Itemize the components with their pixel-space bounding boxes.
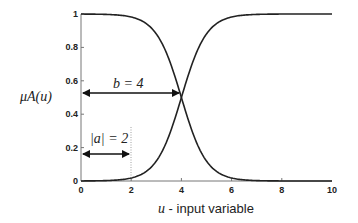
svg-text:0.4: 0.4 bbox=[65, 109, 78, 119]
sigmoid-chart: 0 0.2 0.4 0.6 0.8 1 0 2 4 6 8 10 b = 4 |… bbox=[0, 0, 358, 223]
svg-text:8: 8 bbox=[279, 185, 284, 195]
svg-text:0.6: 0.6 bbox=[65, 76, 78, 86]
svg-text:6: 6 bbox=[229, 185, 234, 195]
svg-text:2: 2 bbox=[129, 185, 134, 195]
a-label: |a| = 2 bbox=[90, 131, 128, 146]
increasing-sigmoid-curve bbox=[81, 14, 332, 181]
svg-text:4: 4 bbox=[179, 185, 184, 195]
y-axis-label: μA(u) bbox=[19, 89, 52, 105]
svg-text:0.8: 0.8 bbox=[65, 42, 78, 52]
svg-text:0.2: 0.2 bbox=[65, 143, 78, 153]
svg-text:1: 1 bbox=[73, 9, 78, 19]
decreasing-sigmoid-curve bbox=[81, 14, 332, 181]
svg-text:10: 10 bbox=[327, 185, 337, 195]
svg-text:0: 0 bbox=[73, 176, 78, 186]
svg-text:0: 0 bbox=[78, 185, 83, 195]
x-axis-label: u - input variable bbox=[158, 201, 254, 216]
b-label: b = 4 bbox=[113, 76, 143, 91]
